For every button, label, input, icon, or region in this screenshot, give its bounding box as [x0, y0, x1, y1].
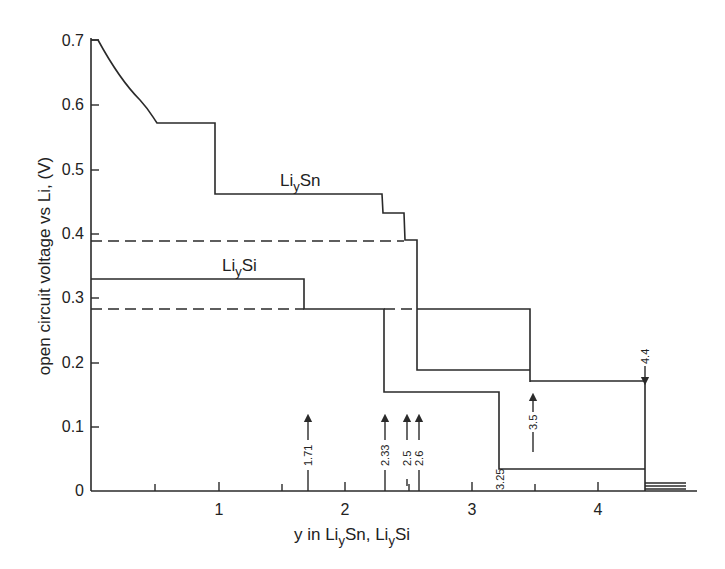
x-tick-label: 1 — [215, 501, 224, 518]
marker-label: 1.71 — [302, 445, 314, 466]
marker-label: 3.5 — [527, 415, 539, 430]
x-tick-labels: 1 2 3 4 — [215, 501, 603, 518]
marker-label: 3.25 — [494, 469, 506, 490]
y-ticks — [91, 40, 99, 427]
y-tick-label: 0.3 — [62, 289, 84, 306]
x-axis-title: y in LiySn, LiySi — [294, 525, 410, 548]
y-axis-title: open circuit voltage vs Li, (V) — [35, 157, 54, 375]
voltage-chart: 0 0.1 0.2 0.3 0.4 0.5 0.6 0.7 1 2 3 4 op… — [0, 0, 725, 569]
x-ticks — [155, 482, 598, 491]
composition-markers — [308, 366, 645, 491]
series-lisn — [91, 40, 645, 491]
x-tick-label: 4 — [594, 501, 603, 518]
series-lisi — [91, 279, 645, 469]
y-tick-label: 0 — [75, 482, 84, 499]
y-tick-label: 0.6 — [62, 96, 84, 113]
y-tick-label: 0.5 — [62, 161, 84, 178]
marker-label: 2.33 — [379, 445, 391, 466]
marker-label: 4.4 — [639, 349, 651, 364]
y-tick-label: 0.7 — [62, 32, 84, 49]
marker-label: 2.6 — [413, 451, 425, 466]
axes — [91, 38, 697, 491]
y-tick-labels: 0 0.1 0.2 0.3 0.4 0.5 0.6 0.7 — [62, 32, 84, 499]
marker-label: 2.5 — [401, 451, 413, 466]
label-lisn: LiySn — [280, 171, 321, 194]
x-tick-label: 3 — [468, 501, 477, 518]
y-tick-label: 0.2 — [62, 354, 84, 371]
x-tick-label: 2 — [341, 501, 350, 518]
y-tick-label: 0.1 — [62, 418, 84, 435]
baseline-triple-lines — [645, 483, 686, 489]
y-tick-label: 0.4 — [62, 225, 84, 242]
label-lisi: LiySi — [222, 256, 257, 279]
